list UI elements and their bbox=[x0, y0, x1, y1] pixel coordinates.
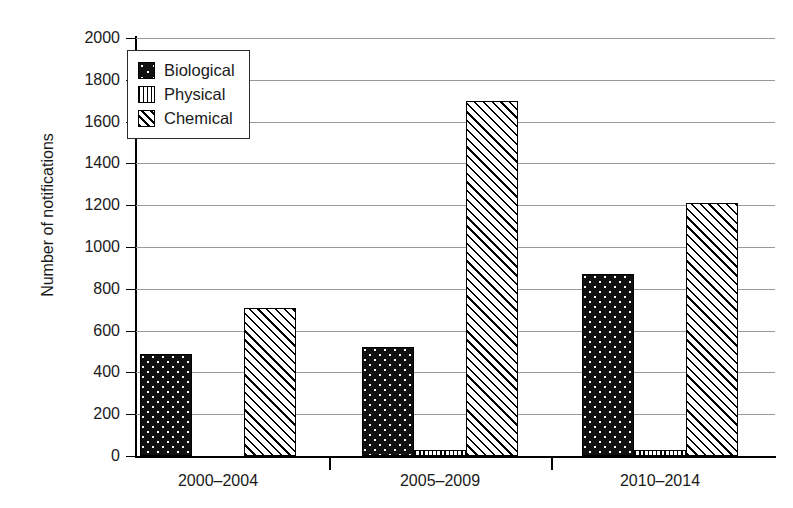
y-tick-label-1600: 1600 bbox=[84, 114, 120, 130]
gridline-1400 bbox=[136, 163, 775, 164]
gridline-1000 bbox=[136, 247, 775, 248]
y-tick-mark-200 bbox=[126, 414, 135, 415]
legend-label-biological: Biological bbox=[164, 62, 235, 79]
bar-biological-2000–2004 bbox=[140, 354, 192, 456]
y-tick-label-1800: 1800 bbox=[84, 72, 120, 88]
x-tick-label-2005–2009: 2005–2009 bbox=[360, 473, 520, 489]
y-tick-mark-400 bbox=[126, 372, 135, 373]
gridline-600 bbox=[136, 331, 775, 332]
gridline-2000 bbox=[136, 38, 775, 39]
y-tick-label-1400: 1400 bbox=[84, 155, 120, 171]
bar-chemical-2010–2014 bbox=[686, 203, 738, 456]
legend-entry-biological: Biological bbox=[138, 58, 235, 82]
bar-chemical-2000–2004 bbox=[244, 308, 296, 456]
y-tick-mark-0 bbox=[126, 456, 135, 457]
y-tick-mark-1000 bbox=[126, 247, 135, 248]
bar-chart-figure: Number of notifications 0200400600800100… bbox=[0, 0, 793, 508]
y-tick-label-1200: 1200 bbox=[84, 197, 120, 213]
y-axis-title: Number of notifications bbox=[39, 75, 57, 355]
legend-swatch-biological-icon bbox=[138, 62, 155, 79]
x-tick-mark-1 bbox=[551, 458, 553, 470]
gridline-0 bbox=[136, 456, 775, 458]
gridline-1200 bbox=[136, 205, 775, 206]
y-tick-label-800: 800 bbox=[93, 281, 120, 297]
y-tick-label-2000: 2000 bbox=[84, 30, 120, 46]
gridline-200 bbox=[136, 414, 775, 415]
gridline-400 bbox=[136, 372, 775, 373]
legend-swatch-physical-icon bbox=[138, 86, 155, 103]
y-tick-mark-2000 bbox=[126, 38, 135, 39]
bar-physical-2005–2009 bbox=[414, 450, 466, 456]
y-tick-label-1000: 1000 bbox=[84, 239, 120, 255]
gridline-800 bbox=[136, 289, 775, 290]
x-tick-label-2000–2004: 2000–2004 bbox=[138, 473, 298, 489]
bar-chemical-2005–2009 bbox=[466, 101, 518, 456]
legend-swatch-chemical-icon bbox=[138, 110, 155, 127]
y-tick-mark-600 bbox=[126, 331, 135, 332]
y-tick-label-600: 600 bbox=[93, 323, 120, 339]
y-tick-label-400: 400 bbox=[93, 364, 120, 380]
legend-label-physical: Physical bbox=[164, 86, 225, 103]
bar-physical-2010–2014 bbox=[634, 450, 686, 456]
y-tick-label-0: 0 bbox=[111, 448, 120, 464]
x-tick-label-2010–2014: 2010–2014 bbox=[580, 473, 740, 489]
bar-biological-2005–2009 bbox=[362, 347, 414, 456]
y-tick-mark-1400 bbox=[126, 163, 135, 164]
y-tick-mark-800 bbox=[126, 289, 135, 290]
chart-legend: Biological Physical Chemical bbox=[127, 50, 250, 139]
y-tick-mark-1200 bbox=[126, 205, 135, 206]
legend-entry-chemical: Chemical bbox=[138, 106, 235, 130]
y-tick-label-200: 200 bbox=[93, 406, 120, 422]
x-tick-mark-0 bbox=[329, 458, 331, 470]
legend-entry-physical: Physical bbox=[138, 82, 235, 106]
legend-label-chemical: Chemical bbox=[164, 110, 233, 127]
bar-biological-2010–2014 bbox=[582, 274, 634, 456]
